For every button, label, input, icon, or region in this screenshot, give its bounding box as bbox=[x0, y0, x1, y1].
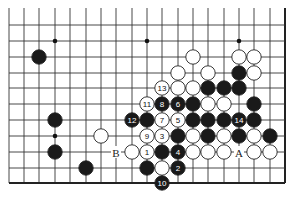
black-stone bbox=[155, 145, 169, 159]
stone-circle-icon bbox=[186, 129, 200, 143]
star-point-icon bbox=[145, 39, 150, 44]
move-number-label: 4 bbox=[176, 148, 181, 157]
stone-circle-icon bbox=[232, 81, 246, 95]
stone-circle-icon bbox=[263, 145, 277, 159]
stone-circle-icon bbox=[201, 113, 215, 127]
black-stone bbox=[201, 129, 215, 143]
white-stone bbox=[263, 145, 277, 159]
stone-circle-icon bbox=[32, 50, 46, 64]
black-stone-10: 10 bbox=[155, 176, 169, 190]
stone-circle-icon bbox=[232, 129, 246, 143]
white-stone-11: 11 bbox=[140, 97, 154, 111]
black-stone bbox=[48, 145, 62, 159]
stone-circle-icon bbox=[217, 129, 231, 143]
stone-circle-icon bbox=[79, 161, 93, 175]
go-board-diagram: BA 1311861275149314210 bbox=[0, 0, 293, 198]
stone-circle-icon bbox=[232, 50, 246, 64]
stone-circle-icon bbox=[48, 113, 62, 127]
stone-circle-icon bbox=[263, 129, 277, 143]
black-stone bbox=[48, 113, 62, 127]
move-number-label: 14 bbox=[235, 116, 244, 125]
black-stone bbox=[201, 113, 215, 127]
move-number-label: 11 bbox=[143, 100, 152, 109]
stone-circle-icon bbox=[201, 129, 215, 143]
stone-circle-icon bbox=[155, 145, 169, 159]
black-stone bbox=[217, 81, 231, 95]
star-point-icon bbox=[53, 134, 58, 139]
white-stone bbox=[232, 50, 246, 64]
stone-circle-icon bbox=[201, 66, 215, 80]
stone-circle-icon bbox=[217, 113, 231, 127]
black-stone-12: 12 bbox=[125, 113, 139, 127]
black-stone bbox=[186, 97, 200, 111]
stone-circle-icon bbox=[140, 161, 154, 175]
stone-circle-icon bbox=[186, 113, 200, 127]
black-stone bbox=[232, 81, 246, 95]
white-stone bbox=[186, 81, 200, 95]
black-stone-8: 8 bbox=[155, 97, 169, 111]
black-stone bbox=[217, 113, 231, 127]
white-stone bbox=[201, 145, 215, 159]
move-number-label: 12 bbox=[128, 116, 137, 125]
move-number-label: 2 bbox=[176, 164, 181, 173]
move-number-label: 10 bbox=[158, 179, 167, 188]
stone-circle-icon bbox=[171, 66, 185, 80]
marker-label-a: A bbox=[235, 147, 243, 159]
white-stone bbox=[186, 145, 200, 159]
stone-circle-icon bbox=[217, 81, 231, 95]
black-stone bbox=[186, 113, 200, 127]
black-stone bbox=[232, 66, 246, 80]
stone-circle-icon bbox=[186, 50, 200, 64]
star-point-icon bbox=[237, 39, 242, 44]
move-number-label: 6 bbox=[176, 100, 181, 109]
black-stone bbox=[32, 50, 46, 64]
stone-circle-icon bbox=[201, 81, 215, 95]
move-number-label: 8 bbox=[160, 100, 165, 109]
black-stone bbox=[263, 129, 277, 143]
stone-circle-icon bbox=[247, 129, 261, 143]
stone-circle-icon bbox=[186, 81, 200, 95]
white-stone bbox=[201, 66, 215, 80]
black-stone bbox=[232, 129, 246, 143]
white-stone-7: 7 bbox=[155, 113, 169, 127]
white-stone bbox=[186, 50, 200, 64]
black-stone bbox=[79, 161, 93, 175]
stone-circle-icon bbox=[247, 145, 261, 159]
stone-circle-icon bbox=[171, 81, 185, 95]
black-stone bbox=[201, 81, 215, 95]
move-number-label: 3 bbox=[160, 132, 165, 141]
black-stone bbox=[247, 97, 261, 111]
white-stone-1: 1 bbox=[140, 145, 154, 159]
stone-circle-icon bbox=[217, 97, 231, 111]
stone-circle-icon bbox=[48, 145, 62, 159]
stone-circle-icon bbox=[232, 66, 246, 80]
black-stone-14: 14 bbox=[232, 113, 246, 127]
white-stone-5: 5 bbox=[171, 113, 185, 127]
black-stone bbox=[140, 161, 154, 175]
white-stone bbox=[247, 145, 261, 159]
white-stone bbox=[125, 145, 139, 159]
stone-circle-icon bbox=[247, 50, 261, 64]
white-stone bbox=[217, 129, 231, 143]
stone-circle-icon bbox=[247, 113, 261, 127]
white-stone-3: 3 bbox=[155, 129, 169, 143]
white-stone bbox=[186, 129, 200, 143]
white-stone bbox=[171, 81, 185, 95]
black-stone-6: 6 bbox=[171, 97, 185, 111]
black-stone bbox=[247, 113, 261, 127]
stone-circle-icon bbox=[201, 97, 215, 111]
black-stone bbox=[140, 113, 154, 127]
marker-label-b: B bbox=[112, 147, 119, 159]
white-stone bbox=[247, 129, 261, 143]
white-stone bbox=[247, 50, 261, 64]
stone-circle-icon bbox=[155, 161, 169, 175]
move-number-label: 7 bbox=[160, 116, 165, 125]
black-stone-4: 4 bbox=[171, 145, 185, 159]
white-stone-13: 13 bbox=[155, 81, 169, 95]
white-stone bbox=[94, 129, 108, 143]
move-number-label: 13 bbox=[158, 84, 167, 93]
stone-circle-icon bbox=[171, 129, 185, 143]
white-stone bbox=[171, 66, 185, 80]
stone-circle-icon bbox=[94, 129, 108, 143]
stone-circle-icon bbox=[201, 145, 215, 159]
